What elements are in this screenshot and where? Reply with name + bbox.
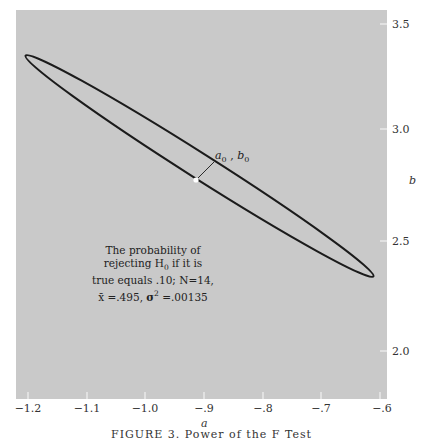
y-tick-label: 3.5: [392, 18, 410, 31]
chart-annotation: The probability of rejecting H0 if it is…: [58, 244, 248, 304]
x-ticks: [28, 392, 380, 399]
x-tick-label: −1.0: [132, 402, 159, 415]
y-axis-label: b: [409, 174, 416, 187]
point-a0-b0: [193, 177, 198, 182]
point-leader-line: [198, 162, 214, 178]
figure-caption: FIGURE 3. Power of the F Test: [0, 428, 423, 438]
chart-graphics: [0, 0, 423, 438]
point-label: a0 , b0: [215, 149, 249, 164]
x-tick-label: −.8: [253, 402, 273, 415]
x-tick-label: −1.2: [15, 402, 42, 415]
x-tick-label: −.9: [194, 402, 214, 415]
x-tick-label: −.7: [311, 402, 331, 415]
y-ticks: [380, 24, 387, 351]
y-tick-label: 3.0: [392, 123, 410, 136]
y-tick-label: 2.5: [392, 235, 410, 248]
y-tick-label: 2.0: [392, 345, 410, 358]
x-tick-label: −1.1: [74, 402, 101, 415]
x-tick-label: −.6: [372, 402, 392, 415]
